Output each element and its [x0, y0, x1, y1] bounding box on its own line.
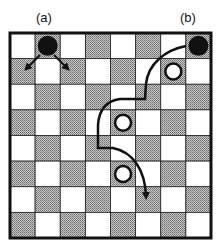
dark-square [60, 212, 85, 238]
dark-square [186, 187, 211, 213]
light-square [35, 110, 60, 136]
light-square [111, 33, 136, 59]
light-square [136, 110, 161, 136]
white-piece-w3 [115, 166, 131, 182]
dark-square [136, 136, 161, 162]
dark-square [136, 33, 161, 59]
dark-square [111, 212, 136, 238]
dark-square [60, 110, 85, 136]
light-square [186, 59, 211, 85]
light-square [186, 110, 211, 136]
light-square [136, 212, 161, 238]
board-squares [10, 33, 211, 238]
light-square [10, 136, 35, 162]
dark-square [161, 110, 186, 136]
light-square [35, 161, 60, 187]
dark-square [60, 59, 85, 85]
light-square [10, 84, 35, 110]
light-square [10, 187, 35, 213]
dark-square [85, 187, 110, 213]
dark-square [35, 187, 60, 213]
dark-square [111, 59, 136, 85]
white-piece-w2 [115, 115, 131, 131]
dark-square [35, 84, 60, 110]
dark-square [10, 110, 35, 136]
dark-square [85, 33, 110, 59]
light-square [60, 187, 85, 213]
light-square [111, 84, 136, 110]
dark-square [10, 212, 35, 238]
dark-square [186, 84, 211, 110]
black-piece-b [188, 36, 208, 56]
light-square [35, 212, 60, 238]
light-square [35, 59, 60, 85]
dark-square [35, 136, 60, 162]
light-square [85, 161, 110, 187]
light-square [60, 84, 85, 110]
light-square [161, 84, 186, 110]
dark-square [60, 161, 85, 187]
dark-square [186, 136, 211, 162]
dark-square [10, 161, 35, 187]
light-square [111, 187, 136, 213]
light-square [186, 212, 211, 238]
light-square [161, 187, 186, 213]
light-square [136, 161, 161, 187]
white-piece-w1 [165, 63, 181, 79]
light-square [186, 161, 211, 187]
dark-square [161, 161, 186, 187]
light-square [161, 136, 186, 162]
dark-square [161, 212, 186, 238]
dark-square [136, 84, 161, 110]
black-piece-a [38, 36, 58, 56]
dark-square [136, 187, 161, 213]
light-square [60, 136, 85, 162]
light-square [10, 33, 35, 59]
light-square [85, 212, 110, 238]
light-square [85, 59, 110, 85]
light-square [60, 33, 85, 59]
checkerboard-diagram [0, 0, 219, 251]
